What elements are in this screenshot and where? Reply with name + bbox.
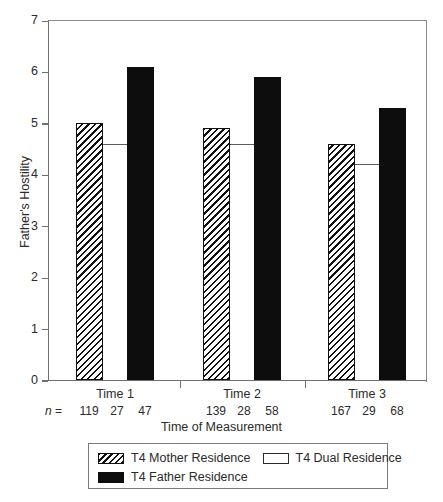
y-tick-4 — [42, 175, 48, 176]
bar-dual-time-1 — [103, 144, 127, 381]
legend-row-top: T4 Mother Residence T4 Dual Residence — [98, 450, 414, 466]
n-value-time-3-father: 68 — [380, 404, 414, 418]
y-tick-2 — [42, 278, 48, 279]
bar-mother-time-1 — [76, 123, 103, 380]
y-tick-3 — [42, 226, 48, 227]
bar-mother-time-2 — [203, 128, 230, 380]
bar-dual-time-3 — [355, 164, 379, 380]
bar-dual-time-2 — [230, 144, 254, 381]
legend-swatch-father-residence — [98, 472, 124, 483]
y-tick-7 — [42, 21, 48, 22]
y-tick-label-2: 2 — [14, 271, 38, 284]
x-group-label-time-3: Time 3 — [307, 387, 427, 401]
x-axis-title: Time of Measurement — [0, 420, 443, 434]
x-group-label-time-2: Time 2 — [182, 387, 302, 401]
legend-label-dual-residence: T4 Dual Residence — [296, 451, 402, 465]
y-tick-label-7: 7 — [14, 14, 38, 27]
y-tick-label-1: 1 — [14, 323, 38, 336]
n-equals-label: n = — [45, 404, 62, 418]
y-tick-5 — [42, 123, 48, 124]
n-italic: n — [45, 404, 52, 418]
n-value-time-1-father: 47 — [128, 404, 162, 418]
legend-swatch-mother-residence — [98, 453, 124, 464]
y-tick-1 — [42, 329, 48, 330]
y-tick-label-6: 6 — [14, 65, 38, 78]
y-tick-label-3: 3 — [14, 220, 38, 233]
y-tick-label-5: 5 — [14, 117, 38, 130]
y-tick-label-4: 4 — [14, 168, 38, 181]
legend: T4 Mother Residence T4 Dual Residence T4… — [88, 443, 388, 489]
bar-father-time-3 — [379, 108, 406, 381]
chart-figure: Father's Hostility 7 6 5 4 3 2 1 0 Time … — [0, 0, 443, 502]
legend-row-bottom: T4 Father Residence — [98, 469, 260, 485]
legend-label-mother-residence: T4 Mother Residence — [131, 451, 251, 465]
y-axis-title: Father's Hostility — [18, 132, 32, 272]
y-tick-0 — [42, 380, 48, 381]
n-value-time-2-father: 58 — [255, 404, 289, 418]
y-tick-label-0: 0 — [14, 374, 38, 387]
bar-mother-time-3 — [328, 144, 355, 381]
bar-father-time-1 — [127, 67, 154, 381]
bar-father-time-2 — [254, 77, 281, 380]
legend-label-father-residence: T4 Father Residence — [131, 470, 248, 484]
legend-swatch-dual-residence — [263, 453, 289, 464]
y-tick-6 — [42, 72, 48, 73]
n-equals-sign: = — [52, 404, 62, 418]
x-group-label-time-1: Time 1 — [55, 387, 175, 401]
